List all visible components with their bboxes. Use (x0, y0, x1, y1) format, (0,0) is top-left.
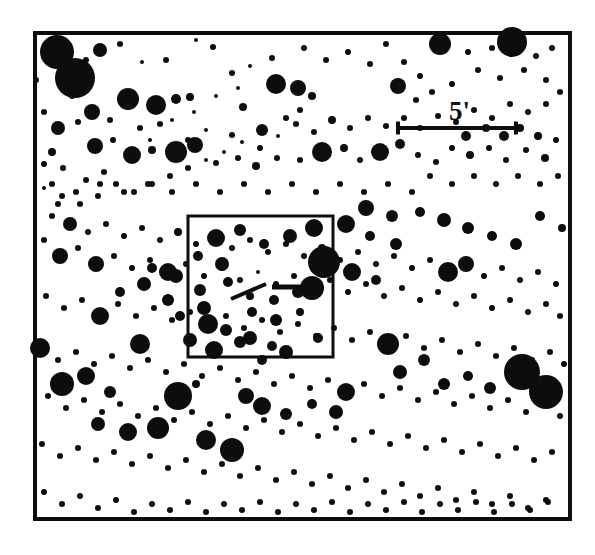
star-marker (391, 253, 397, 259)
star-marker (329, 405, 343, 419)
star-marker (297, 107, 303, 113)
star-marker (385, 181, 391, 187)
star-marker (215, 257, 229, 271)
star-marker (145, 357, 151, 363)
star-marker (39, 441, 45, 447)
star-marker (365, 115, 371, 121)
star-marker (535, 211, 545, 221)
star-marker (543, 77, 549, 83)
star-marker (55, 58, 95, 98)
star-marker (165, 465, 171, 471)
star-marker (87, 138, 103, 154)
star-marker (390, 78, 406, 94)
star-marker (459, 449, 465, 455)
star-marker (543, 101, 549, 107)
star-marker (121, 189, 127, 195)
star-marker (543, 301, 549, 307)
star-marker (545, 499, 551, 505)
star-marker (435, 485, 441, 491)
star-marker (489, 305, 495, 311)
star-marker (175, 311, 185, 321)
star-marker (525, 109, 531, 115)
star-marker (497, 75, 503, 81)
star-marker (73, 189, 79, 195)
star-marker (423, 445, 429, 451)
star-marker (165, 141, 187, 163)
star-marker (49, 181, 55, 187)
star-marker (129, 461, 135, 467)
star-marker (325, 377, 331, 383)
star-marker (167, 507, 173, 513)
star-marker (367, 329, 373, 335)
star-marker (240, 140, 244, 144)
star-marker (553, 281, 559, 287)
star-marker (135, 413, 141, 419)
star-marker (241, 181, 247, 187)
star-marker (453, 301, 459, 307)
star-marker (164, 382, 192, 410)
star-marker (117, 41, 123, 47)
star-marker (75, 445, 81, 451)
star-marker (367, 61, 373, 67)
star-marker (171, 417, 177, 423)
star-marker (259, 239, 269, 249)
star-marker (533, 53, 539, 59)
star-marker (210, 44, 216, 50)
star-marker (473, 499, 479, 505)
star-marker (183, 333, 197, 347)
star-marker (207, 421, 213, 427)
star-marker (511, 345, 517, 351)
star-marker (185, 165, 191, 171)
star-marker (277, 329, 283, 335)
star-marker (169, 317, 175, 323)
star-marker (127, 365, 133, 371)
star-marker (373, 261, 379, 267)
star-marker (417, 493, 423, 499)
star-marker (267, 341, 277, 351)
star-marker (50, 372, 74, 396)
star-marker (162, 294, 174, 306)
star-marker (417, 73, 423, 79)
star-marker (137, 125, 143, 131)
star-marker (358, 200, 374, 216)
star-marker (333, 425, 339, 431)
star-marker (517, 277, 523, 283)
star-marker (83, 57, 89, 63)
star-marker (269, 55, 275, 61)
star-marker (345, 485, 351, 491)
star-marker (60, 165, 66, 171)
star-marker (291, 273, 297, 279)
star-marker (219, 461, 225, 467)
star-marker (131, 509, 137, 515)
star-marker (147, 257, 153, 263)
star-marker (293, 121, 299, 127)
star-marker (557, 313, 563, 319)
star-marker (363, 281, 369, 287)
star-marker (77, 367, 95, 385)
star-marker (147, 417, 169, 439)
star-marker (237, 277, 243, 283)
star-marker (256, 124, 268, 136)
star-marker (290, 80, 306, 96)
star-marker (253, 397, 271, 415)
star-marker (149, 501, 155, 507)
star-marker (157, 237, 163, 243)
star-marker (252, 162, 260, 170)
star-marker (235, 155, 241, 161)
star-marker (415, 152, 421, 158)
star-marker (59, 193, 65, 199)
star-marker (41, 489, 47, 495)
star-marker (437, 501, 443, 507)
star-marker (523, 147, 529, 153)
star-marker (415, 207, 425, 217)
star-marker (527, 507, 533, 513)
star-marker (194, 284, 206, 296)
star-marker (521, 67, 527, 73)
star-marker (265, 249, 271, 255)
star-marker (117, 88, 139, 110)
star-marker (499, 265, 505, 271)
star-marker (279, 429, 285, 435)
star-marker (229, 245, 235, 251)
star-marker (505, 397, 511, 403)
star-marker (427, 257, 433, 263)
